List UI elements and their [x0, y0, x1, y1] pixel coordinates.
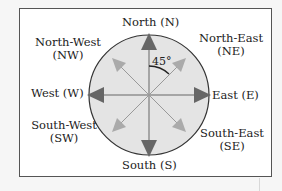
label-west: West (W) [31, 87, 84, 100]
label-south-east: South-East (SE) [195, 127, 269, 153]
south-west-abbr: (SW) [26, 132, 102, 145]
label-south: South (S) [122, 159, 177, 172]
north-label-text: North (N) [122, 16, 179, 29]
label-north: North (N) [122, 16, 179, 29]
north-east-abbr: (NE) [194, 45, 268, 58]
east-label-text: East (E) [212, 89, 259, 102]
west-label-text: West (W) [31, 87, 84, 100]
north-west-abbr: (NW) [31, 49, 105, 62]
label-south-west: South-West (SW) [26, 119, 102, 145]
label-east: East (E) [212, 89, 259, 102]
angle-label: 45° [152, 55, 172, 68]
south-label-text: South (S) [122, 159, 177, 172]
label-north-east: North-East (NE) [194, 32, 268, 58]
south-east-abbr: (SE) [195, 140, 269, 153]
label-north-west: North-West (NW) [31, 36, 105, 62]
